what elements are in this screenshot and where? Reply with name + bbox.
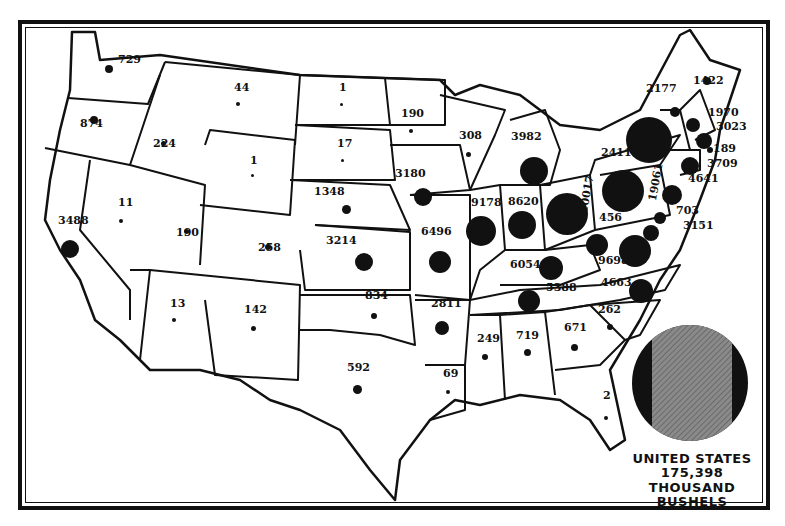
proportional-symbol-dot (686, 118, 700, 132)
proportional-symbol-dot (251, 326, 256, 331)
proportional-symbol-dot (409, 129, 413, 133)
state-value-label: 4663 (601, 277, 632, 288)
state-value-label: 2811 (431, 298, 462, 309)
proportional-symbol-dot (414, 188, 432, 206)
proportional-symbol-dot (371, 313, 377, 319)
proportional-symbol-dot (251, 174, 254, 177)
proportional-symbol-dot (105, 65, 113, 73)
proportional-symbol-dot (654, 212, 666, 224)
proportional-symbol-dot (670, 107, 680, 117)
proportional-symbol-dot (703, 77, 711, 85)
state-value-label: 9178 (471, 197, 502, 208)
state-value-label: 592 (347, 362, 370, 373)
proportional-symbol-dot (524, 349, 531, 356)
state-value-label: 189 (713, 143, 736, 154)
state-value-label: 17 (337, 138, 352, 149)
state-value-label: 671 (564, 322, 587, 333)
proportional-symbol-dot (429, 251, 451, 273)
proportional-symbol-dot (607, 324, 613, 330)
state-value-label: 6054 (510, 259, 541, 270)
proportional-symbol-dot (520, 157, 548, 185)
state-value-label: 1348 (314, 186, 345, 197)
state-value-label: 262 (598, 304, 621, 315)
proportional-symbol-dot (508, 211, 536, 239)
state-value-label: 11 (118, 197, 133, 208)
proportional-symbol-dot (184, 229, 189, 234)
state-value-label: 3709 (707, 158, 738, 169)
proportional-symbol-dot (435, 321, 449, 335)
state-value-label: 1970 (708, 107, 739, 118)
proportional-symbol-dot (604, 416, 608, 420)
state-value-label: 13 (170, 298, 185, 309)
state-value-label: 3023 (716, 121, 747, 132)
proportional-symbol-dot (172, 318, 176, 322)
proportional-symbol-dot (586, 234, 608, 256)
us-state-outline-map (0, 0, 785, 526)
legend-line-3: THOUSAND BUSHELS (612, 481, 772, 510)
state-value-label: 3214 (326, 235, 357, 246)
proportional-symbol-dot (681, 157, 699, 175)
proportional-symbol-dot (482, 354, 488, 360)
legend-caption: UNITED STATES 175,398 THOUSAND BUSHELS (612, 452, 772, 509)
proportional-symbol-dot (707, 147, 713, 153)
state-value-label: 703 (676, 205, 699, 216)
proportional-symbol-dot (353, 385, 362, 394)
proportional-symbol-dot (539, 256, 563, 280)
state-value-label: 8620 (508, 196, 539, 207)
proportional-symbol-dot (61, 240, 79, 258)
legend-line-1: UNITED STATES (612, 452, 772, 466)
state-value-label: 834 (365, 290, 388, 301)
state-value-label: 3151 (683, 220, 714, 231)
proportional-symbol-dot (626, 117, 672, 163)
proportional-symbol-dot (119, 219, 123, 223)
proportional-symbol-dot (571, 344, 578, 351)
proportional-symbol-dot (236, 102, 240, 106)
state-value-label: 1 (250, 155, 258, 166)
state-value-label: 6496 (421, 226, 452, 237)
state-value-label: 4641 (688, 173, 719, 184)
proportional-symbol-dot (355, 253, 373, 271)
proportional-symbol-dot (446, 390, 450, 394)
proportional-symbol-dot (342, 205, 351, 214)
proportional-symbol-dot (602, 170, 644, 212)
state-value-label: 3180 (395, 168, 426, 179)
state-value-label: 729 (118, 54, 141, 65)
proportional-symbol-dot (518, 290, 540, 312)
proportional-symbol-dot (161, 141, 166, 146)
proportional-symbol-dot (629, 279, 653, 303)
proportional-symbol-dot (466, 152, 471, 157)
state-value-label: 44 (234, 82, 249, 93)
proportional-symbol-dot (340, 103, 343, 106)
state-value-label: 142 (244, 304, 267, 315)
state-value-label: 190 (401, 108, 424, 119)
state-value-label: 69 (443, 368, 458, 379)
state-value-label: 3488 (58, 215, 89, 226)
state-value-label: 2177 (646, 83, 677, 94)
state-value-label: 2 (603, 390, 611, 401)
state-value-label: 5388 (546, 282, 577, 293)
proportional-symbol-dot (546, 193, 588, 235)
proportional-symbol-dot (643, 225, 659, 241)
proportional-symbol-dot (265, 244, 271, 250)
proportional-symbol-dot (90, 116, 98, 124)
state-value-label: 456 (599, 212, 622, 223)
state-value-label: 249 (477, 333, 500, 344)
state-value-label: 308 (459, 130, 482, 141)
legend-total-value: 175,398 (612, 466, 772, 480)
state-value-label: 719 (516, 330, 539, 341)
state-value-label: 3982 (511, 131, 542, 142)
proportional-symbol-dot (341, 159, 344, 162)
state-value-label: 1 (339, 82, 347, 93)
proportional-symbol-dot (662, 185, 682, 205)
proportional-symbol-dot (466, 216, 496, 246)
